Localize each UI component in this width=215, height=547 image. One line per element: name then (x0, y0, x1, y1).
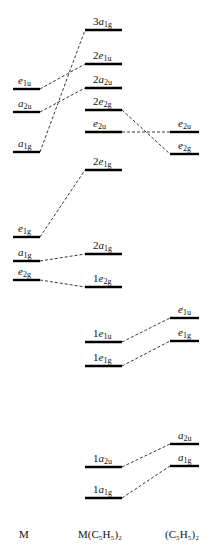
correlation-line (40, 254, 85, 261)
level-label-c_2a2u: 2a2u (93, 74, 112, 85)
level-label-c_1e1u: 1e1u (93, 328, 111, 339)
correlation-line (40, 170, 85, 237)
level-label-c_2e1g: 2e1g (93, 156, 111, 167)
correlation-line (40, 30, 85, 152)
correlation-line (40, 64, 85, 89)
level-label-c_1a2u: 1a2u (93, 453, 112, 464)
column-label-metallocene: M(C₅H₅)₂ (78, 528, 122, 540)
level-label-c_e2u: e2u (93, 118, 106, 129)
level-label-l_a2u: a2u (178, 430, 192, 441)
level-label-c_2e2g: 2e2g (93, 96, 111, 107)
level-label-m_e1g: e1g (18, 223, 31, 234)
column-label-ligands: (C₅H₅)₂ (165, 528, 199, 540)
correlation-line (40, 280, 85, 287)
level-label-l_e1g: e1g (178, 327, 191, 338)
correlation-line (40, 88, 85, 112)
correlation-line (122, 341, 170, 366)
level-label-l_e2u: e2u (178, 118, 191, 129)
correlation-line (122, 466, 170, 498)
level-label-c_2a1g: 2a1g (93, 240, 112, 251)
level-label-m_a1g_4s: a1g (18, 138, 32, 149)
level-label-m_a2u: a2u (18, 98, 32, 109)
level-label-c_2e1u: 2e1u (93, 50, 111, 61)
level-label-l_e2g: e2g (178, 140, 191, 151)
level-label-m_e1u: e1u (18, 75, 31, 86)
level-label-m_a1g: a1g (18, 247, 32, 258)
level-label-c_1e1g: 1e1g (93, 352, 111, 363)
column-label-metal: M (19, 528, 29, 540)
level-label-c_3a1g: 3a1g (93, 16, 112, 27)
level-label-l_a1g: a1g (178, 452, 192, 463)
level-label-c_1e2g: 1e2g (93, 273, 111, 284)
correlation-line (122, 318, 170, 342)
level-label-l_e1u: e1u (178, 304, 191, 315)
correlation-line (122, 444, 170, 467)
level-label-c_1a1g: 1a1g (93, 484, 112, 495)
level-label-m_e2g: e2g (18, 266, 31, 277)
